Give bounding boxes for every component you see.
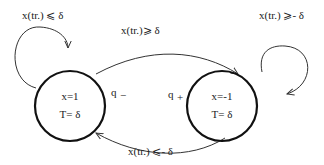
state-right-t: T= δ: [212, 108, 233, 120]
label-self-loop-left: x(tr.) ⩽ δ: [22, 9, 63, 22]
label-edge-right-to-left: x(tr.) ⩽- δ: [128, 145, 173, 158]
state-right-q-sub: +: [177, 91, 183, 103]
state-right-x: x=-1: [212, 90, 233, 102]
state-right-q: q: [168, 88, 174, 100]
state-left-q: q: [111, 86, 117, 98]
state-diagram: x(tr.) ⩽ δ x(tr.)⩾ δ x(tr.) ⩾- δ x(tr.) …: [0, 0, 324, 165]
state-left-x: x=1: [61, 90, 78, 102]
self-loop-left: [15, 27, 68, 88]
state-node-right: x=-1 T= δ: [187, 71, 257, 141]
label-edge-left-to-right: x(tr.)⩾ δ: [121, 24, 160, 37]
state-left-t: T= δ: [60, 108, 81, 120]
label-self-loop-right: x(tr.) ⩾- δ: [259, 9, 304, 22]
state-left-q-sub: −: [120, 89, 126, 101]
self-loop-right: [261, 46, 308, 94]
state-node-left: x=1 T= δ: [35, 71, 105, 141]
